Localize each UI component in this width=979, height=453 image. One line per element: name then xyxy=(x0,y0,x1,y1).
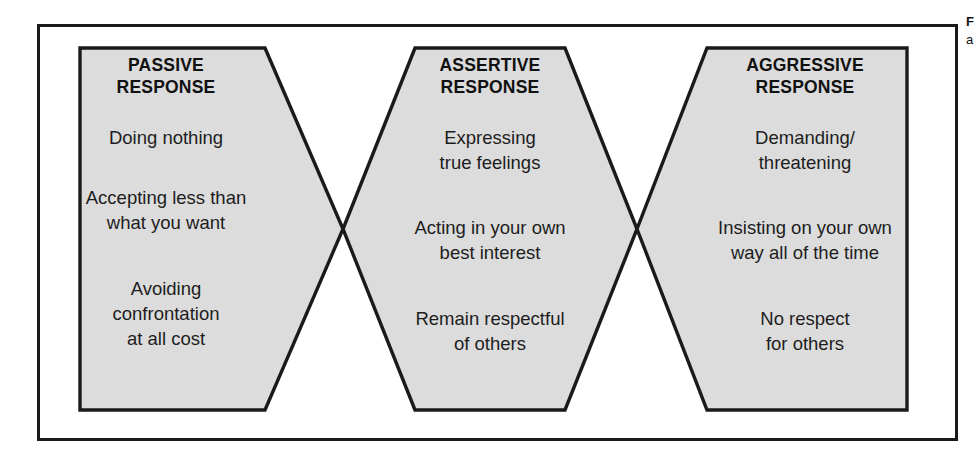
margin-caption-note: F a xyxy=(966,13,979,48)
assertive-item-2-line-2: best interest xyxy=(440,242,541,263)
aggressive-item-3-line-1: No respect xyxy=(760,308,849,329)
passive-heading-line-2: RESPONSE xyxy=(117,77,216,97)
aggressive-item-2-line-2: way all of the time xyxy=(730,242,879,263)
passive-item-1-line-1: Doing nothing xyxy=(109,127,223,148)
passive-item-3-line-2: confrontation xyxy=(113,303,220,324)
assertive-item-1-line-2: true feelings xyxy=(440,152,541,173)
aggressive-item-3-line-2: for others xyxy=(766,333,844,354)
passive-item-2-line-1: Accepting less than xyxy=(86,187,246,208)
assertive-heading-line-1: ASSERTIVE xyxy=(440,55,541,75)
assertive-item-3-line-1: Remain respectful xyxy=(415,308,564,329)
aggressive-heading-line-2: RESPONSE xyxy=(756,77,855,97)
aggressive-item-1-line-2: threatening xyxy=(759,152,852,173)
passive-item-2-line-2: what you want xyxy=(106,212,225,233)
assertive-item-2-line-1: Acting in your own xyxy=(414,217,565,238)
assertive-item-3-line-2: of others xyxy=(454,333,526,354)
assertive-item-1-line-1: Expressing xyxy=(444,127,536,148)
margin-caption-subtitle: a xyxy=(966,31,979,49)
aggressive-item-1-line-1: Demanding/ xyxy=(755,127,856,148)
passive-heading-line-1: PASSIVE xyxy=(128,55,204,75)
passive-item-3-line-3: at all cost xyxy=(127,328,205,349)
aggressive-heading-line-1: AGGRESSIVE xyxy=(746,55,864,75)
assertive-heading-line-2: RESPONSE xyxy=(441,77,540,97)
margin-caption-title: F xyxy=(966,13,979,31)
aggressive-item-2-line-1: Insisting on your own xyxy=(718,217,892,238)
passive-item-3-line-1: Avoiding xyxy=(131,278,202,299)
